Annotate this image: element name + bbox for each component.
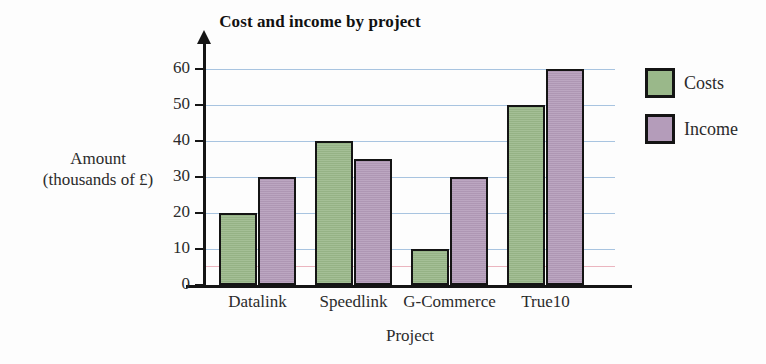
- y-tick-60: [195, 68, 205, 70]
- y-axis-line: [203, 40, 206, 288]
- y-axis-title: Amount (thousands of £): [8, 148, 188, 191]
- bar-datalink-costs[interactable]: [219, 213, 257, 285]
- y-tick-label-40: 40: [152, 130, 190, 150]
- legend-swatch-costs-icon: [645, 68, 675, 98]
- y-tick-40: [195, 140, 205, 142]
- y-axis-arrow-icon: [197, 30, 211, 44]
- bar-speedlink-costs[interactable]: [315, 141, 353, 285]
- y-axis-title-line-2: (thousands of £): [8, 169, 188, 190]
- y-tick-30: [195, 176, 205, 178]
- y-tick-0: [195, 284, 205, 286]
- y-tick-label-60: 60: [152, 58, 190, 78]
- bar-true10-costs[interactable]: [507, 105, 545, 285]
- legend-label-costs: Costs: [684, 73, 724, 94]
- bar-g-commerce-costs[interactable]: [411, 249, 449, 285]
- y-tick-label-0: 0: [152, 274, 190, 294]
- y-tick-label-20: 20: [152, 202, 190, 222]
- bar-chart-figure: Cost and income by project 0102030405060…: [0, 0, 766, 364]
- y-tick-20: [195, 212, 205, 214]
- bar-speedlink-income[interactable]: [354, 159, 392, 285]
- y-axis-title-line-1: Amount: [8, 148, 188, 169]
- y-tick-50: [195, 104, 205, 106]
- chart-legend: Costs Income: [645, 68, 738, 160]
- legend-item-income: Income: [645, 114, 738, 144]
- y-tick-label-50: 50: [152, 94, 190, 114]
- x-axis-line: [186, 285, 632, 288]
- legend-swatch-income-icon: [645, 114, 675, 144]
- x-axis-label-true10: True10: [481, 292, 611, 312]
- y-tick-label-10: 10: [152, 238, 190, 258]
- chart-title: Cost and income by project: [0, 12, 640, 32]
- x-axis-title: Project: [205, 326, 615, 346]
- bar-datalink-income[interactable]: [258, 177, 296, 285]
- bar-true10-income[interactable]: [546, 69, 584, 285]
- legend-item-costs: Costs: [645, 68, 738, 98]
- legend-label-income: Income: [684, 119, 738, 140]
- y-tick-10: [195, 248, 205, 250]
- bar-g-commerce-income[interactable]: [450, 177, 488, 285]
